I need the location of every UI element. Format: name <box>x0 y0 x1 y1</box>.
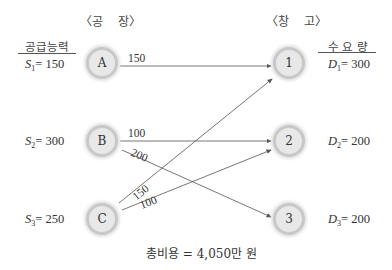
warehouse-header: 〈창 고〉 <box>266 12 327 29</box>
supply-label-a: S1= 150 <box>25 57 64 73</box>
supply-capacity-header: 공급능력 <box>18 38 76 54</box>
demand-label-1: D1= 300 <box>328 57 370 73</box>
warehouse-node-2: 2 <box>276 128 302 154</box>
flow-label-a-1: 150 <box>128 52 145 64</box>
warehouse-node-3: 3 <box>276 206 302 232</box>
factory-node-a: A <box>89 50 115 76</box>
demand-header-rule <box>318 52 376 53</box>
supply-label-c: S3= 250 <box>25 212 64 228</box>
factory-header: 〈공 장〉 <box>80 12 141 29</box>
warehouse-node-1: 1 <box>276 50 302 76</box>
factory-node-b: B <box>89 128 115 154</box>
factory-node-c: C <box>89 206 115 232</box>
total-cost: 총비용 = 4,050만 원 <box>146 244 257 261</box>
supply-label-b: S2= 300 <box>25 134 64 150</box>
demand-label-2: D2= 200 <box>328 134 370 150</box>
supply-header-rule <box>18 53 76 54</box>
demand-label-3: D3= 200 <box>328 212 370 228</box>
flow-label-b-2: 100 <box>128 127 145 139</box>
